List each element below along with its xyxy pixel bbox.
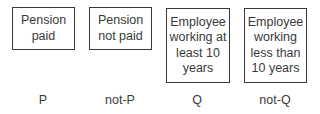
card-text: Employee working less than 10 years bbox=[246, 15, 306, 77]
card-label-p: P bbox=[12, 93, 74, 107]
card-label-not-q: not-Q bbox=[244, 93, 306, 107]
card-label-q: Q bbox=[166, 93, 228, 107]
card-employee-at-least-10-years: Employee working at least 10 years bbox=[166, 8, 230, 83]
card-text: Employee working at least 10 years bbox=[168, 15, 228, 77]
card-text: Pension not paid bbox=[92, 13, 150, 44]
card-pension-paid: Pension paid bbox=[12, 7, 75, 50]
card-label-not-p: not-P bbox=[89, 93, 151, 107]
card-employee-less-than-10-years: Employee working less than 10 years bbox=[244, 8, 307, 83]
card-text: Pension paid bbox=[19, 13, 69, 44]
card-pension-not-paid: Pension not paid bbox=[89, 7, 152, 50]
